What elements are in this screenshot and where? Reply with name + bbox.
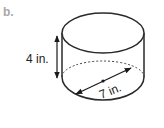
height-label: 4 in.: [26, 52, 49, 66]
top-ellipse: [62, 13, 144, 53]
center-point: [101, 79, 104, 82]
bottom-ellipse-back: [62, 61, 144, 77]
cylinder-diagram: 4 in. 7 in.: [0, 0, 164, 128]
